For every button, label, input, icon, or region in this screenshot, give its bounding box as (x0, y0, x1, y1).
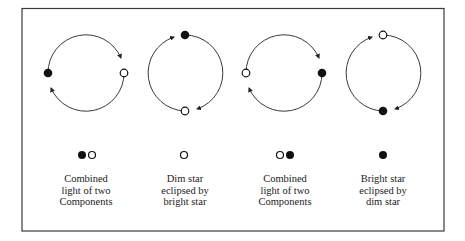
observed-light-1 (78, 151, 96, 159)
caption-phase-1: Combined light of two Components (41, 173, 131, 208)
caption-line: dim star (338, 196, 428, 208)
dim-star-icon (379, 31, 387, 39)
bright-star-icon (181, 31, 190, 40)
orbit-panel-1 (44, 35, 128, 111)
orbit-path (246, 35, 319, 73)
orbit-panel-3 (242, 35, 326, 111)
dim-star-icon (181, 152, 188, 159)
orbit-panel-2 (148, 31, 223, 115)
orbit-path (185, 35, 223, 109)
caption-line: Dim star (140, 173, 230, 185)
caption-line: bright star (140, 196, 230, 208)
orbit-path (148, 37, 185, 111)
orbit-path (346, 37, 383, 111)
orbit-panel-4 (346, 31, 421, 115)
caption-phase-4: Bright star eclipsed by dim star (338, 173, 428, 208)
caption-line: Combined (240, 173, 330, 185)
caption-line: Bright star (338, 173, 428, 185)
bright-star-icon (318, 69, 327, 78)
caption-line: eclipsed by (140, 185, 230, 197)
orbit-path (51, 73, 124, 111)
dim-star-icon (277, 152, 284, 159)
caption-phase-2: Dim star eclipsed by bright star (140, 173, 230, 208)
caption-line: Combined (41, 173, 131, 185)
bright-star-icon (379, 151, 387, 159)
dim-star-icon (242, 69, 250, 77)
caption-phase-3: Combined light of two Components (240, 173, 330, 208)
caption-line: Components (240, 196, 330, 208)
bright-star-icon (379, 107, 388, 116)
caption-line: light of two (240, 185, 330, 197)
orbit-path (48, 35, 121, 73)
observed-light-3 (277, 151, 295, 159)
orbit-path (249, 73, 322, 111)
dim-star-icon (89, 152, 96, 159)
bright-star-icon (286, 151, 294, 159)
bright-star-icon (44, 69, 53, 78)
caption-line: Components (41, 196, 131, 208)
observed-light-2 (181, 152, 188, 159)
observed-light-4 (379, 151, 387, 159)
bright-star-icon (78, 151, 86, 159)
caption-line: light of two (41, 185, 131, 197)
dim-star-icon (181, 107, 189, 115)
caption-line: eclipsed by (338, 185, 428, 197)
dim-star-icon (120, 69, 128, 77)
orbit-path (383, 35, 421, 109)
